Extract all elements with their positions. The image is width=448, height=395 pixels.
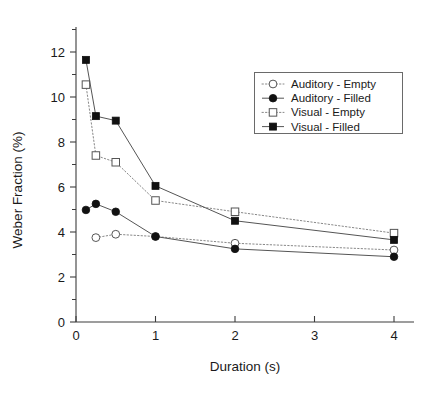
series-line — [96, 234, 394, 250]
axes-group — [76, 27, 414, 322]
data-point — [112, 208, 120, 216]
data-point — [92, 152, 100, 160]
y-axis-title: Weber Fraction (%) — [10, 132, 25, 249]
data-point — [82, 81, 90, 89]
legend-label: Visual - Empty — [291, 106, 365, 118]
weber-fraction-line-chart: 024681012 01234 Duration (s) Weber Fract… — [0, 0, 448, 395]
data-point — [112, 230, 120, 238]
legend-sample-marker — [269, 94, 277, 102]
y-tick-label: 4 — [58, 225, 65, 240]
y-tick-label: 12 — [51, 45, 65, 60]
x-tick-label: 3 — [311, 328, 318, 343]
y-tick-label: 8 — [58, 135, 65, 150]
chart-legend: Auditory - EmptyAuditory - FilledVisual … — [255, 73, 403, 134]
x-axis-ticks: 01234 — [72, 316, 397, 343]
data-point — [92, 113, 99, 120]
chart-figure: 024681012 01234 Duration (s) Weber Fract… — [0, 0, 448, 395]
legend-sample-marker — [270, 123, 277, 130]
series-auditory-empty — [92, 230, 398, 254]
legend-sample-marker — [269, 109, 277, 117]
legend-label: Auditory - Empty — [291, 78, 376, 90]
series-line — [86, 204, 394, 257]
data-point — [92, 200, 100, 208]
data-point — [92, 234, 100, 242]
data-point — [232, 217, 239, 224]
y-tick-label: 0 — [58, 315, 65, 330]
y-tick-label: 6 — [58, 180, 65, 195]
x-tick-label: 1 — [152, 328, 159, 343]
y-tick-label: 10 — [51, 90, 65, 105]
legend-sample-marker — [269, 80, 277, 88]
data-point — [112, 117, 119, 124]
y-axis-ticks: 024681012 — [51, 30, 76, 330]
data-point — [82, 206, 90, 214]
data-point — [390, 253, 398, 261]
data-point — [152, 197, 160, 205]
y-tick-label: 2 — [58, 270, 65, 285]
legend-label: Visual - Filled — [291, 121, 360, 133]
data-point — [231, 245, 239, 253]
data-point — [231, 208, 239, 216]
x-tick-label: 2 — [231, 328, 238, 343]
series-auditory-filled — [82, 200, 398, 260]
data-point — [390, 229, 398, 237]
data-point — [152, 182, 159, 189]
data-point — [391, 236, 398, 243]
legend-label: Auditory - Filled — [291, 92, 371, 104]
data-point — [82, 56, 89, 63]
x-tick-label: 4 — [390, 328, 397, 343]
x-axis-title: Duration (s) — [210, 359, 281, 374]
data-point — [152, 233, 160, 241]
x-tick-label: 0 — [72, 328, 79, 343]
data-point — [112, 159, 120, 167]
